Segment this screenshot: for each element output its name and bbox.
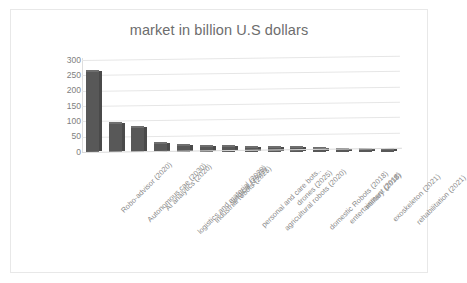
bar-series	[82, 60, 400, 152]
bar-side-face	[394, 149, 397, 151]
y-axis-tick-250: 250	[67, 71, 81, 80]
bar-slot	[357, 60, 379, 152]
bar-slot	[243, 60, 265, 152]
bar-top-face	[268, 146, 281, 148]
category-label: surgical (2022)	[227, 165, 268, 206]
bar[interactable]	[109, 124, 122, 152]
bar-slot	[198, 60, 220, 152]
bar-slot	[311, 60, 333, 152]
bar-side-face	[122, 123, 125, 151]
bar-top-face	[245, 146, 258, 148]
bar-top-face	[290, 146, 303, 148]
bar-slot	[379, 60, 401, 152]
bar-slot	[152, 60, 174, 152]
bar-side-face	[372, 149, 375, 151]
y-axis-tick-300: 300	[67, 56, 81, 65]
bar-side-face	[144, 127, 147, 151]
bar-top-face	[154, 142, 167, 144]
bar[interactable]	[86, 72, 99, 152]
bar-top-face	[222, 145, 235, 147]
bar-slot	[107, 60, 129, 152]
bar-top-face	[86, 70, 99, 72]
bar-top-face	[200, 145, 213, 147]
y-axis-tick-50: 50	[72, 132, 81, 141]
y-axis-tick-100: 100	[67, 117, 81, 126]
bar-top-face	[131, 126, 144, 128]
bar-slot	[334, 60, 356, 152]
chart-title: market in billion U.S dollars	[0, 22, 438, 38]
bar-slot	[288, 60, 310, 152]
bar-top-face	[177, 144, 190, 146]
bar-slot	[266, 60, 288, 152]
bar-slot	[84, 60, 106, 152]
x-axis-category-labels: Robo-advisor (2020)Autonomous cae (2030)…	[0, 152, 438, 280]
y-axis-tick-150: 150	[67, 102, 81, 111]
bar-slot	[175, 60, 197, 152]
category-label: AI analytics (2020)	[163, 162, 213, 212]
bar-slot	[129, 60, 151, 152]
bar-top-face	[109, 122, 122, 124]
category-label: rehabilitation (2021)	[414, 173, 467, 226]
y-axis-tick-labels: 300250200150100500	[55, 54, 81, 158]
bar[interactable]	[131, 128, 144, 152]
bar-slot	[220, 60, 242, 152]
y-axis-tick-200: 200	[67, 86, 81, 95]
bar-side-face	[99, 71, 102, 151]
